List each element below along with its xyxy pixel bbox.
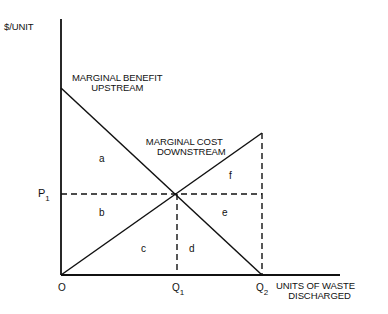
region-d: d — [189, 243, 195, 254]
x-axis-label: UNITS OF WASTE DISCHARGED — [276, 281, 355, 301]
marginal-benefit-label: MARGINAL BENEFIT UPSTREAM — [72, 73, 162, 93]
region-f: f — [229, 170, 232, 181]
origin-label: O — [58, 283, 66, 293]
region-c: c — [141, 243, 146, 254]
q1-label: Q1 — [172, 283, 184, 294]
marginal-benefit-line — [61, 88, 262, 275]
region-e: e — [222, 207, 228, 218]
diagram-canvas — [0, 0, 388, 314]
region-b: b — [99, 207, 105, 218]
marginal-cost-label: MARGINAL COST DOWNSTREAM — [143, 137, 226, 157]
price-label: P1 — [38, 188, 50, 200]
region-a: a — [99, 153, 105, 164]
q2-label: Q2 — [256, 283, 268, 294]
y-axis-label: $/UNIT — [4, 22, 34, 32]
